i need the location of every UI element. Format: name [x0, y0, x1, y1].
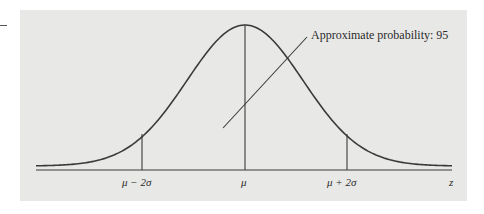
tick-label-minus-2sigma: μ − 2σ [122, 176, 151, 188]
annotation-leader-line [223, 37, 307, 128]
figure: Approximate probability: 95 μ − 2σ μ μ +… [0, 0, 484, 214]
annotation-label: Approximate probability: 95 [311, 28, 448, 43]
tick-label-plus-2sigma: μ + 2σ [327, 176, 356, 188]
axis-label-z: z [449, 176, 453, 188]
normal-curve [36, 25, 452, 166]
tick-label-mean: μ [241, 176, 247, 188]
